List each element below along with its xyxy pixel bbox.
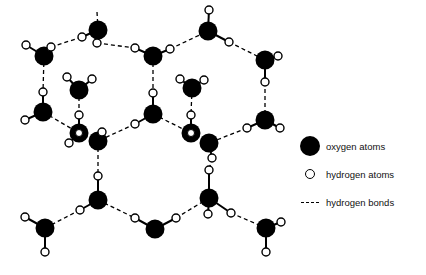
hydrogen-atom — [75, 111, 83, 119]
hydrogen-atom-overlap — [188, 130, 195, 137]
hydrogen-bond — [51, 37, 82, 47]
hydrogen-atom — [65, 139, 73, 147]
oxygen-atom — [256, 111, 275, 130]
hydrogen-atom — [205, 6, 213, 14]
hydrogen-atom — [200, 76, 208, 84]
oxygen-atom — [200, 134, 219, 153]
hydrogen-atom — [277, 218, 285, 226]
hydrogen-atom — [176, 75, 184, 83]
hydrogen-bond-icon — [301, 202, 319, 203]
hydrogen-atom — [39, 88, 47, 96]
hydrogen-atom — [172, 214, 180, 222]
hydrogen-atom — [205, 166, 213, 174]
oxygen-atom — [36, 219, 55, 238]
oxygen-atom — [200, 189, 219, 208]
oxygen-atom — [34, 103, 53, 122]
hydrogen-atom — [94, 172, 102, 180]
hydrogen-atom — [225, 38, 233, 46]
oxygen-atom — [257, 219, 276, 238]
legend-label-bond: hydrogen bonds — [326, 197, 394, 208]
oxygen-atoms-layer — [34, 21, 276, 239]
oxygen-atom-icon — [300, 136, 320, 156]
hydrogen-atom — [22, 41, 30, 49]
hydrogen-atom-overlap — [76, 130, 83, 137]
oxygen-atom — [89, 191, 108, 210]
hydrogen-atom — [204, 210, 212, 218]
hydrogen-atom — [47, 43, 55, 51]
oxygen-atom — [146, 220, 165, 239]
oxygen-atom — [89, 21, 108, 40]
hydrogen-atom — [21, 213, 29, 221]
oxygen-atom — [144, 105, 163, 124]
hydrogen-atom — [78, 33, 86, 41]
hydrogen-bond — [97, 43, 135, 48]
hydrogen-atom — [243, 124, 251, 132]
legend-label-oxygen: oxygen atoms — [326, 141, 385, 152]
hydrogen-atom-icon — [305, 169, 315, 179]
hydrogen-atom — [208, 154, 216, 162]
legend-item-bond: hydrogen bonds — [298, 192, 394, 212]
hydrogen-atom — [131, 44, 139, 52]
legend-label-hydrogen: hydrogen atoms — [326, 169, 394, 180]
hydrogen-atom — [274, 52, 282, 60]
hydrogen-atom — [276, 124, 284, 132]
oxygen-atom — [256, 51, 275, 70]
hydrogen-atom — [76, 206, 84, 214]
oxygen-atom — [199, 22, 218, 41]
oxygen-atom — [144, 47, 163, 66]
hydrogen-atom — [63, 73, 71, 81]
hydrogen-atom — [149, 89, 157, 97]
hydrogen-atom — [98, 128, 106, 136]
hydrogen-atom — [261, 78, 269, 86]
hydrogen-atom — [227, 209, 235, 217]
hydrogen-atom — [88, 75, 96, 83]
hydrogen-atom — [166, 45, 174, 53]
hydrogen-atom — [21, 116, 29, 124]
hydrogen-atom — [262, 248, 270, 256]
legend-item-oxygen: oxygen atoms — [298, 136, 385, 156]
hydrogen-atom — [41, 248, 49, 256]
hydrogen-atom — [131, 120, 139, 128]
oxygen-atom — [183, 79, 202, 98]
covalent-bonds-layer — [25, 10, 281, 252]
hydrogen-atom — [131, 214, 139, 222]
oxygen-atom — [70, 81, 89, 100]
hydrogen-atom — [93, 39, 101, 47]
legend-item-hydrogen: hydrogen atoms — [298, 164, 394, 184]
hydrogen-atom — [187, 111, 195, 119]
